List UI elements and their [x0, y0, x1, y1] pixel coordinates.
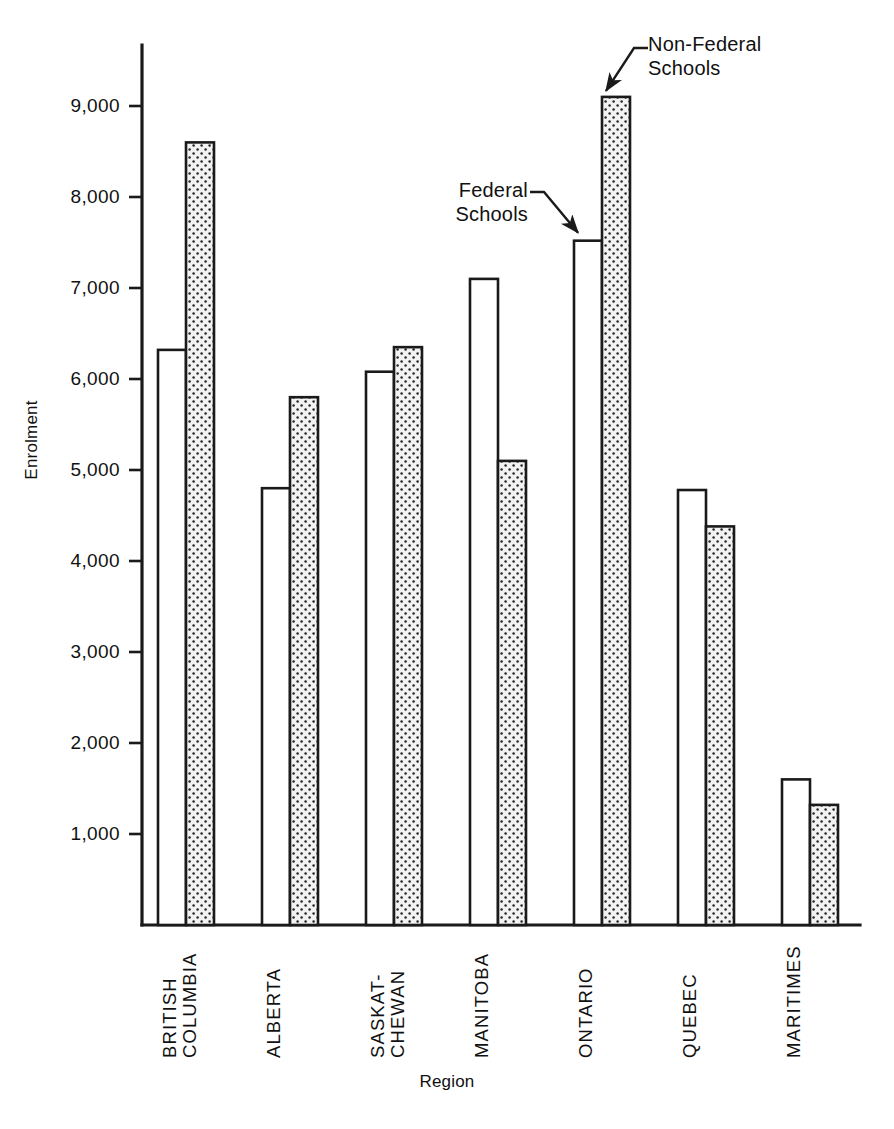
bar-federal-4 — [574, 241, 602, 925]
bar-non-federal-5 — [706, 526, 734, 925]
plot-area — [0, 0, 894, 1129]
bar-non-federal-3 — [498, 461, 526, 925]
bar-federal-2 — [366, 372, 394, 925]
bar-federal-1 — [262, 488, 290, 925]
bar-non-federal-2 — [394, 347, 422, 925]
bar-chart-figure: Enrolment Region 1,0002,0003,0004,0005,0… — [0, 0, 894, 1129]
bar-non-federal-6 — [810, 805, 838, 925]
bar-federal-3 — [470, 279, 498, 925]
bar-federal-5 — [678, 490, 706, 925]
bar-federal-0 — [158, 350, 186, 925]
bar-non-federal-4 — [602, 97, 630, 925]
bar-group — [158, 97, 838, 925]
bar-non-federal-0 — [186, 142, 214, 925]
bar-federal-6 — [782, 779, 810, 925]
bar-non-federal-1 — [290, 397, 318, 925]
